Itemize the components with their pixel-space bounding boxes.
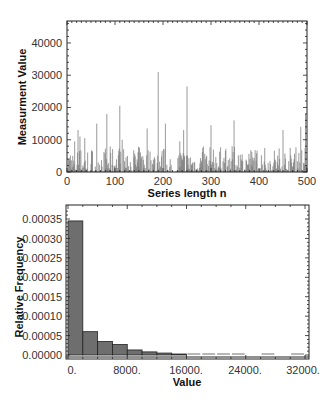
y-tick-label: 0 xyxy=(56,166,62,178)
y-tick-label: 10000 xyxy=(31,134,62,146)
x-tick-label: 200 xyxy=(154,175,172,187)
bottom-x-tick-labels: 0. 8000. 16000. 24000. 32000. xyxy=(67,364,319,376)
x-tick-label: 8000. xyxy=(113,364,141,376)
x-tick-label: 400 xyxy=(250,175,268,187)
x-tick-label: 16000. xyxy=(169,364,203,376)
top-x-tick-labels: 0 100 200 300 400 500 xyxy=(64,175,316,187)
bottom-x-axis-title: Value xyxy=(173,376,202,388)
y-tick-label: 0.00035 xyxy=(22,213,62,225)
x-tick-label: 300 xyxy=(202,175,220,187)
y-tick-label: 0.00000 xyxy=(22,349,62,361)
x-tick-label: 0 xyxy=(64,175,70,187)
histogram-ticks xyxy=(66,205,309,359)
y-tick-label: 40000 xyxy=(31,37,62,49)
x-tick-label: 24000. xyxy=(228,364,262,376)
x-tick-label: 0. xyxy=(67,364,76,376)
histogram-plot: 0.00000 0.00005 0.00010 0.00015 0.00020 … xyxy=(13,205,320,388)
x-tick-label: 100 xyxy=(106,175,124,187)
y-tick-label: 0.00015 xyxy=(22,291,62,303)
y-tick-label: 0.00010 xyxy=(22,310,62,322)
top-y-tick-labels: 0 10000 20000 30000 40000 xyxy=(31,37,62,178)
histogram-bar xyxy=(157,353,172,355)
figure: 0 10000 20000 30000 40000 0 100 200 300 … xyxy=(0,0,328,403)
histogram-bar xyxy=(127,350,142,355)
bottom-y-axis-title: Relative Frequency xyxy=(13,236,25,338)
bottom-plot-frame xyxy=(66,205,309,359)
y-tick-label: 0.00025 xyxy=(22,252,62,264)
histogram-bar xyxy=(83,332,98,355)
x-tick-label: 32000. xyxy=(286,364,320,376)
y-tick-label: 0.00020 xyxy=(22,271,62,283)
histogram-bar xyxy=(172,354,187,355)
histogram-bar xyxy=(142,352,157,355)
x-tick-label: 500 xyxy=(298,175,316,187)
y-tick-label: 20000 xyxy=(31,101,62,113)
histogram-bars xyxy=(68,221,304,355)
sequence-plot: 0 10000 20000 30000 40000 0 100 200 300 … xyxy=(16,21,316,199)
y-tick-label: 30000 xyxy=(31,69,62,81)
histogram-bar xyxy=(112,345,127,355)
top-y-axis-title: Measurment Value xyxy=(16,49,28,146)
histogram-bar xyxy=(98,341,113,355)
y-tick-label: 0.00030 xyxy=(22,233,62,245)
sequence-bars xyxy=(68,72,307,172)
bottom-y-tick-labels: 0.00000 0.00005 0.00010 0.00015 0.00020 … xyxy=(22,213,62,361)
histogram-bar xyxy=(68,221,83,355)
y-tick-label: 0.00005 xyxy=(22,330,62,342)
top-x-axis-title: Series length n xyxy=(148,187,227,199)
